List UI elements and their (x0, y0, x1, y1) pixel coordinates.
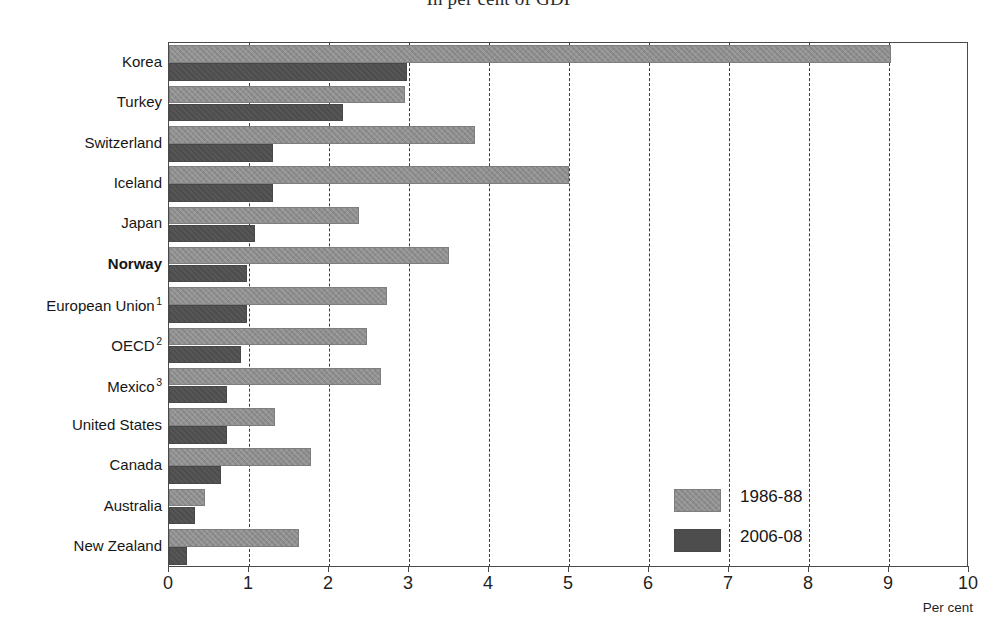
gridline-3 (409, 43, 410, 567)
chart-title: In per cent of GDP (0, 0, 1001, 10)
category-label-norway: Norway (4, 256, 162, 271)
bar-2006-08-turkey (169, 104, 343, 122)
x-tick-mark-0 (168, 566, 169, 572)
x-tick-mark-8 (808, 566, 809, 572)
chart-figure: In per cent of GDP KoreaTurkeySwitzerlan… (0, 0, 1001, 634)
category-label-text: Korea (122, 53, 162, 70)
x-tick-label-7: 7 (708, 573, 748, 594)
x-tick-label-0: 0 (148, 573, 188, 594)
x-tick-label-1: 1 (228, 573, 268, 594)
x-tick-label-4: 4 (468, 573, 508, 594)
category-label-text: Canada (109, 456, 162, 473)
category-label-australia: Australia (4, 498, 162, 513)
category-label-switzerland: Switzerland (4, 135, 162, 150)
x-tick-mark-4 (488, 566, 489, 572)
bar-1986-88-korea (169, 45, 891, 63)
footnote-marker: 2 (156, 335, 162, 347)
category-label-text: United States (72, 416, 162, 433)
bar-1986-88-japan (169, 207, 359, 225)
gridline-4 (489, 43, 490, 567)
x-tick-mark-2 (328, 566, 329, 572)
category-label-text: Norway (108, 255, 162, 272)
gridline-2 (329, 43, 330, 567)
category-label-european-union: European Union1 (4, 296, 162, 313)
plot-area: 1986-88 2006-08 (168, 42, 968, 566)
category-label-text: OECD (111, 337, 154, 354)
gridline-9 (889, 43, 890, 567)
x-tick-label-2: 2 (308, 573, 348, 594)
bar-1986-88-european-union (169, 287, 387, 305)
legend-swatch-icon-1986-88 (674, 489, 721, 512)
category-label-united-states: United States (4, 417, 162, 432)
category-label-text: New Zealand (74, 537, 162, 554)
x-tick-mark-9 (888, 566, 889, 572)
bar-2006-08-iceland (169, 184, 273, 202)
bar-2006-08-mexico (169, 386, 227, 404)
legend-label-1986-88: 1986-88 (740, 487, 802, 507)
category-label-text: Australia (104, 497, 162, 514)
bar-2006-08-switzerland (169, 144, 273, 162)
gridline-6 (649, 43, 650, 567)
category-label-new-zealand: New Zealand (4, 538, 162, 553)
bar-2006-08-united-states (169, 426, 227, 444)
bar-2006-08-korea (169, 63, 407, 81)
x-tick-mark-10 (968, 566, 969, 572)
x-tick-mark-3 (408, 566, 409, 572)
bar-1986-88-switzerland (169, 126, 475, 144)
bar-1986-88-united-states (169, 408, 275, 426)
category-label-japan: Japan (4, 215, 162, 230)
bar-2006-08-new-zealand (169, 547, 187, 565)
category-label-text: Turkey (117, 93, 162, 110)
bar-2006-08-european-union (169, 305, 247, 323)
bar-1986-88-norway (169, 247, 449, 265)
x-tick-mark-1 (248, 566, 249, 572)
bar-2006-08-oecd (169, 346, 241, 364)
x-tick-label-3: 3 (388, 573, 428, 594)
x-tick-label-5: 5 (548, 573, 588, 594)
bar-2006-08-australia (169, 507, 195, 525)
category-label-text: Mexico (107, 378, 155, 395)
x-tick-mark-5 (568, 566, 569, 572)
category-label-text: Switzerland (84, 134, 162, 151)
bar-1986-88-turkey (169, 86, 405, 104)
category-label-oecd: OECD2 (4, 336, 162, 353)
category-label-text: Japan (121, 214, 162, 231)
x-axis-unit-label: Per cent (923, 600, 973, 615)
gridline-8 (809, 43, 810, 567)
gridline-1 (249, 43, 250, 567)
category-label-mexico: Mexico3 (4, 377, 162, 394)
footnote-marker: 1 (156, 295, 162, 307)
x-tick-mark-7 (728, 566, 729, 572)
category-label-iceland: Iceland (4, 175, 162, 190)
bar-1986-88-canada (169, 448, 311, 466)
legend-label-2006-08: 2006-08 (740, 527, 802, 547)
x-tick-label-10: 10 (948, 573, 988, 594)
bar-2006-08-japan (169, 225, 255, 243)
category-axis-labels: KoreaTurkeySwitzerlandIcelandJapanNorway… (0, 42, 162, 566)
bar-1986-88-mexico (169, 368, 381, 386)
bar-1986-88-iceland (169, 166, 569, 184)
category-label-text: European Union (46, 297, 154, 314)
bar-2006-08-norway (169, 265, 247, 283)
bar-1986-88-australia (169, 489, 205, 507)
category-label-text: Iceland (114, 174, 162, 191)
gridline-7 (729, 43, 730, 567)
footnote-marker: 3 (156, 376, 162, 388)
legend-swatch-icon-2006-08 (674, 529, 721, 552)
gridline-5 (569, 43, 570, 567)
bar-1986-88-oecd (169, 328, 367, 346)
category-label-turkey: Turkey (4, 94, 162, 109)
x-tick-label-8: 8 (788, 573, 828, 594)
x-tick-label-6: 6 (628, 573, 668, 594)
x-tick-mark-6 (648, 566, 649, 572)
category-label-canada: Canada (4, 457, 162, 472)
x-tick-label-9: 9 (868, 573, 908, 594)
bar-2006-08-canada (169, 466, 221, 484)
category-label-korea: Korea (4, 54, 162, 69)
bar-1986-88-new-zealand (169, 529, 299, 547)
